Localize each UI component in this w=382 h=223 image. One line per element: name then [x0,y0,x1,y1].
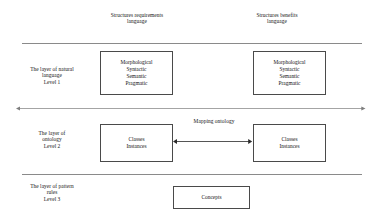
layered-ontology-diagram: Structures requirements language Structu… [0,0,382,223]
column-caption-requirements: Structures requirements language [82,12,192,25]
layer-label-level-1: The layer of natural language Level 1 [4,66,100,85]
box-level-2-benefits-label: Classes Instances [279,136,299,150]
divider-top [22,43,362,44]
box-level-1-benefits-label: Morphological Syntactic Semantic Pragmat… [273,59,305,88]
layer-axis-arrow [16,104,366,113]
box-level-1-benefits: Morphological Syntactic Semantic Pragmat… [253,51,326,95]
box-level-2-requirements-label: Classes Instances [126,136,146,150]
box-level-3-concepts-label: Concepts [201,194,221,201]
divider-bottom [22,174,362,175]
layer-label-level-3: The layer of pattern rules Level 3 [4,183,100,202]
mapping-ontology-label: Mapping ontology [168,118,260,124]
mapping-ontology-arrow [173,137,253,146]
box-level-2-requirements: Classes Instances [100,124,173,162]
box-level-2-benefits: Classes Instances [253,124,326,162]
layer-label-level-2: The layer of ontology Level 2 [4,130,100,149]
box-level-1-requirements: Morphological Syntactic Semantic Pragmat… [100,51,173,95]
column-caption-benefits: Structures benefits language [222,12,332,25]
box-level-1-requirements-label: Morphological Syntactic Semantic Pragmat… [120,59,152,88]
box-level-3-concepts: Concepts [173,186,250,209]
